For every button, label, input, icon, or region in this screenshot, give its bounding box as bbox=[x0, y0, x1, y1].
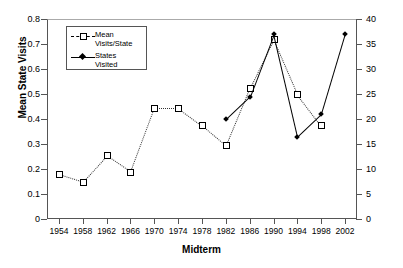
x-tick bbox=[345, 219, 346, 224]
y-tick-label-left: 0.7 bbox=[27, 40, 40, 49]
y-tick-label-left: 0.3 bbox=[27, 140, 40, 149]
legend-label-line2: Visited bbox=[95, 60, 117, 69]
y-tick-label-left: 0 bbox=[35, 215, 40, 224]
y-tick-label-right: 25 bbox=[366, 90, 376, 99]
y-tick-label-left: 0.2 bbox=[27, 165, 40, 174]
y-tick-left bbox=[41, 69, 47, 70]
y-tick-right bbox=[356, 119, 362, 120]
data-point-marker bbox=[56, 171, 63, 178]
y-tick-left bbox=[41, 144, 47, 145]
y-tick-right bbox=[356, 194, 362, 195]
chart-container: 00.10.20.30.40.50.60.70.8 05101520253035… bbox=[0, 0, 403, 268]
y-tick-label-right: 10 bbox=[366, 165, 376, 174]
y-tick-right bbox=[356, 144, 362, 145]
y-tick-label-right: 0 bbox=[366, 215, 371, 224]
x-tick bbox=[297, 219, 298, 224]
x-tick bbox=[321, 219, 322, 224]
y-tick-right bbox=[356, 169, 362, 170]
legend-label-states-visited: States Visited bbox=[95, 52, 117, 69]
x-tick bbox=[83, 219, 84, 224]
x-axis-title: Midterm bbox=[0, 244, 403, 255]
y-tick-right bbox=[356, 19, 362, 20]
y-tick-label-right: 15 bbox=[366, 140, 376, 149]
data-point-marker bbox=[80, 179, 87, 186]
data-point-marker bbox=[294, 91, 301, 98]
y-tick-right bbox=[356, 94, 362, 95]
y-tick-label-right: 30 bbox=[366, 65, 376, 74]
x-tick-label: 2002 bbox=[325, 227, 365, 236]
x-tick bbox=[107, 219, 108, 224]
x-tick bbox=[59, 219, 60, 224]
y-tick-label-left: 0.6 bbox=[27, 65, 40, 74]
legend-label-line2: Visits/State bbox=[95, 39, 132, 48]
x-tick bbox=[130, 219, 131, 224]
y-tick-label-left: 0.8 bbox=[27, 15, 40, 24]
data-point-marker bbox=[127, 169, 134, 176]
solid-diamond-icon bbox=[71, 53, 95, 62]
y-tick-left bbox=[41, 44, 47, 45]
y-tick-label-left: 0.1 bbox=[27, 190, 40, 199]
y-tick-label-right: 35 bbox=[366, 40, 376, 49]
legend-item-states-visited: States Visited bbox=[71, 52, 143, 69]
y-tick-left bbox=[41, 169, 47, 170]
x-tick bbox=[274, 219, 275, 224]
legend-item-mean-visits: Mean Visits/State bbox=[71, 31, 143, 48]
y-tick-left bbox=[41, 219, 47, 220]
y-tick-label-right: 5 bbox=[366, 190, 371, 199]
dashed-open-square-icon bbox=[71, 32, 95, 41]
y-tick-label-left: 0.4 bbox=[27, 115, 40, 124]
y-tick-left bbox=[41, 194, 47, 195]
x-tick bbox=[154, 219, 155, 224]
y-tick-left bbox=[41, 94, 47, 95]
y-axis-left-title: Mean State Visits bbox=[17, 18, 28, 138]
x-tick bbox=[178, 219, 179, 224]
y-tick-right bbox=[356, 44, 362, 45]
x-tick bbox=[202, 219, 203, 224]
data-point-marker bbox=[199, 122, 206, 129]
y-tick-label-right: 40 bbox=[366, 15, 376, 24]
chart-legend: Mean Visits/State States Visited bbox=[66, 26, 147, 70]
x-tick bbox=[226, 219, 227, 224]
y-tick-label-right: 20 bbox=[366, 115, 376, 124]
y-tick-left bbox=[41, 19, 47, 20]
x-tick bbox=[250, 219, 251, 224]
data-point-marker bbox=[151, 105, 158, 112]
data-point-marker bbox=[223, 142, 230, 149]
data-point-marker bbox=[175, 105, 182, 112]
y-tick-label-left: 0.5 bbox=[27, 90, 40, 99]
y-tick-right bbox=[356, 69, 362, 70]
legend-label-mean-visits: Mean Visits/State bbox=[95, 31, 132, 48]
y-tick-right bbox=[356, 219, 362, 220]
data-point-marker bbox=[104, 152, 111, 159]
data-point-marker bbox=[318, 122, 325, 129]
y-tick-left bbox=[41, 119, 47, 120]
